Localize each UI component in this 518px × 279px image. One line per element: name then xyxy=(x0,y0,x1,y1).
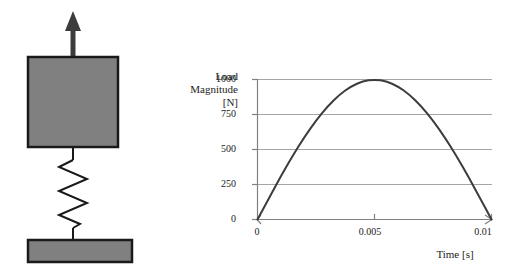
figure-mass-spring-load: Load Magnitude [N] 1000 750 500 250 0 0 … xyxy=(0,0,518,279)
base-block xyxy=(28,240,132,262)
spring-coils xyxy=(59,160,87,228)
y-axis-ticks xyxy=(252,80,258,220)
schematic-svg xyxy=(0,0,160,279)
upward-force-arrow xyxy=(65,11,81,57)
gridlines xyxy=(257,80,492,185)
arrow-head xyxy=(65,11,81,31)
y-axis xyxy=(252,79,258,220)
x-axis-title: Time [s] xyxy=(400,248,510,261)
load-magnitude-chart: Load Magnitude [N] 1000 750 500 250 0 0 … xyxy=(160,0,518,279)
mass-spring-schematic xyxy=(0,0,160,279)
plot-area-svg xyxy=(160,0,518,279)
x-axis xyxy=(257,214,492,224)
mass-block xyxy=(28,57,118,147)
spring xyxy=(59,147,87,240)
